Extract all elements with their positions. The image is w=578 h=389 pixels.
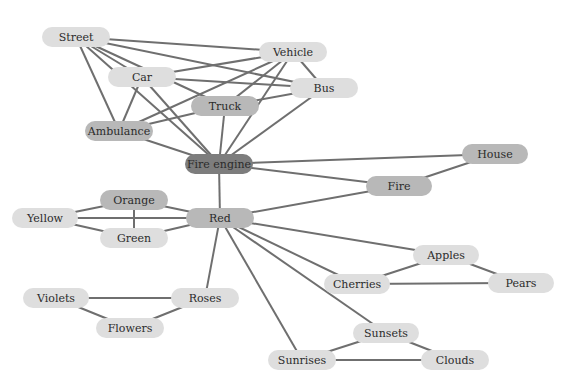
node-label: Roses [189, 292, 222, 305]
node-label: Fire engine [187, 158, 251, 171]
node-label: Flowers [108, 322, 153, 335]
node-orange: Orange [100, 190, 168, 210]
node-red: Red [186, 208, 254, 228]
node-label: Fire [388, 180, 411, 193]
node-label: Car [132, 71, 152, 84]
node-label: Bus [314, 82, 335, 95]
node-label: Truck [209, 100, 242, 113]
node-label: Violets [37, 292, 75, 305]
node-label: Clouds [436, 354, 474, 367]
concept-network-diagram: StreetVehicleCarBusTruckAmbulanceFire en… [0, 0, 578, 389]
node-ambulance: Ambulance [85, 121, 153, 141]
node-label: Green [117, 232, 151, 245]
node-label: Apples [427, 249, 465, 262]
node-green: Green [100, 228, 168, 248]
node-label: Pears [506, 277, 537, 290]
node-label: Orange [113, 194, 154, 207]
node-clouds: Clouds [421, 350, 489, 370]
node-vehicle: Vehicle [259, 42, 327, 62]
node-label: Sunsets [364, 327, 408, 340]
node-truck: Truck [191, 96, 259, 116]
node-label: Yellow [27, 212, 63, 225]
node-roses: Roses [171, 288, 239, 308]
node-apples: Apples [413, 245, 479, 265]
node-violets: Violets [23, 288, 89, 308]
node-fire: Fire [366, 176, 432, 196]
node-pears: Pears [488, 273, 554, 293]
node-sunrises: Sunrises [268, 350, 336, 370]
node-cherries: Cherries [324, 274, 390, 294]
node-car: Car [108, 67, 176, 87]
node-label: Vehicle [273, 46, 313, 59]
edge-fire_engine-house [219, 154, 495, 164]
node-label: Cherries [333, 278, 381, 291]
node-flowers: Flowers [96, 318, 164, 338]
node-house: House [462, 144, 528, 164]
node-bus: Bus [290, 78, 358, 98]
node-label: Ambulance [88, 125, 150, 138]
node-label: Street [59, 31, 94, 44]
node-label: Sunrises [278, 354, 326, 367]
edge-red-apples [220, 218, 446, 255]
node-street: Street [42, 27, 110, 47]
node-label: Red [209, 212, 231, 225]
node-label: House [477, 148, 512, 161]
node-yellow: Yellow [12, 208, 78, 228]
node-fire-engine: Fire engine [185, 154, 253, 174]
node-sunsets: Sunsets [353, 323, 419, 343]
edge-red-roses [205, 218, 220, 298]
